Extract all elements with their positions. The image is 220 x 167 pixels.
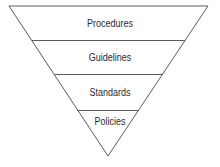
layer-policies: Policies [11,116,209,127]
layer-standards: Standards [11,87,209,98]
layer-guidelines: Guidelines [11,52,209,63]
layer-procedures: Procedures [11,18,209,29]
